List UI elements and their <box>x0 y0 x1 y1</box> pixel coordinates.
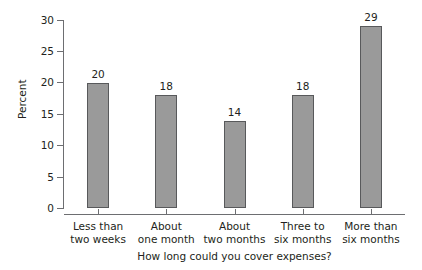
x-axis-title: How long could you cover expenses? <box>63 251 406 262</box>
y-axis-tick <box>57 177 63 178</box>
bar-value-label: 20 <box>78 69 118 80</box>
y-axis-title: Percent <box>17 64 28 134</box>
y-axis-tick-label: 10 <box>10 140 54 151</box>
x-axis-tick-label: More thansix months <box>331 220 411 245</box>
x-axis-tick <box>235 209 236 214</box>
y-axis-tick <box>57 208 63 209</box>
y-axis-tick-labels: 051015202530 <box>0 0 54 270</box>
bar <box>292 95 314 208</box>
bar-value-label: 14 <box>215 107 255 118</box>
y-axis-tick <box>57 145 63 146</box>
x-axis-tick-label-line: six months <box>331 233 411 246</box>
x-axis-tick <box>98 209 99 214</box>
bar <box>87 83 109 209</box>
y-axis-tick <box>57 20 63 21</box>
x-axis-tick <box>371 209 372 214</box>
bar-value-label: 29 <box>351 12 391 23</box>
bar <box>155 95 177 208</box>
bar-value-label: 18 <box>283 81 323 92</box>
y-axis-tick <box>57 114 63 115</box>
y-axis-tick-label: 30 <box>10 15 54 26</box>
y-axis-line <box>63 20 64 209</box>
y-axis-tick <box>57 82 63 83</box>
x-axis-line <box>64 214 405 215</box>
bar-value-label: 18 <box>146 81 186 92</box>
x-axis-tick-label-line: More than <box>331 220 411 233</box>
bar <box>224 121 246 209</box>
x-axis-tick <box>303 209 304 214</box>
y-axis-tick-label: 25 <box>10 46 54 57</box>
y-axis-tick-label: 0 <box>10 203 54 214</box>
y-axis-tick <box>57 51 63 52</box>
bar <box>360 26 382 208</box>
bar-chart-figure: 051015202530 Percent How long could you … <box>0 0 422 270</box>
y-axis-tick-label: 5 <box>10 172 54 183</box>
x-axis-tick <box>166 209 167 214</box>
